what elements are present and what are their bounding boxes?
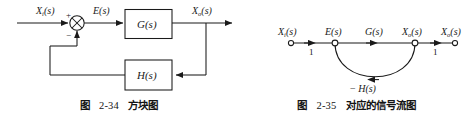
summing-minus-sign: − xyxy=(66,31,71,40)
input-signal-label: Xi(s) xyxy=(36,6,54,16)
summing-plus-sign: + xyxy=(66,11,71,20)
caption-label-fig: 图 xyxy=(80,100,90,111)
sfg-node-label-xo-2: Xo(s) xyxy=(441,27,461,37)
forward-block-label: G(s) xyxy=(137,19,157,30)
error-signal-label: E(s) xyxy=(93,6,110,16)
caption-number: 2-35 xyxy=(316,100,336,111)
sfg-feedback-arc xyxy=(335,43,415,77)
figure-pair-container: Xi(s) + − E(s) G(s) H(s) Xo(s) 图2-34方块图 xyxy=(0,0,475,121)
sfg-gain-output: 1 xyxy=(433,48,438,57)
sfg-gain-input: 1 xyxy=(309,48,314,57)
sfg-node-label-e: E(s) xyxy=(325,27,342,37)
sfg-node-e xyxy=(332,40,338,46)
sfg-node-label-xo-1: Xo(s) xyxy=(402,27,422,37)
block-diagram-figure: Xi(s) + − E(s) G(s) H(s) Xo(s) 图2-34方块图 xyxy=(0,0,238,121)
caption-title: 对应的信号流图 xyxy=(346,100,416,111)
signal-flow-graph-caption: 图2-35对应的信号流图 xyxy=(238,101,475,112)
output-signal-label: Xo(s) xyxy=(192,6,212,16)
sfg-node-xo-1 xyxy=(412,40,418,46)
sfg-node-label-xi: Xi(s) xyxy=(278,27,296,37)
sfg-node-xi xyxy=(288,40,293,45)
signal-flow-graph-figure: Xi(s) E(s) G(s) Xo(s) Xo(s) 1 1 − H(s) 图… xyxy=(238,0,475,121)
sfg-node-xo-2 xyxy=(452,40,457,45)
sfg-branch-label-g: G(s) xyxy=(365,27,383,37)
block-diagram-caption: 图2-34方块图 xyxy=(0,101,238,112)
caption-number: 2-34 xyxy=(99,100,119,111)
feedback-block-label: H(s) xyxy=(137,70,157,81)
caption-title: 方块图 xyxy=(128,100,158,111)
caption-label-fig: 图 xyxy=(297,100,307,111)
sfg-feedback-label: − H(s) xyxy=(350,84,376,94)
